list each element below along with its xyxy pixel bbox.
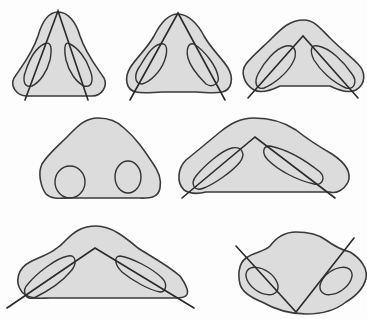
panel-2 xyxy=(127,13,232,100)
panel-5 xyxy=(179,118,349,198)
nasal-base-outline xyxy=(18,226,188,298)
nasal-base-outline xyxy=(239,232,366,314)
panel-3 xyxy=(243,20,364,98)
panel-1 xyxy=(13,11,106,100)
panel-6 xyxy=(7,226,194,308)
nasal-base-outline xyxy=(243,20,364,92)
nose-diagram xyxy=(0,0,367,319)
panel-4 xyxy=(40,118,161,198)
nasal-base-outline xyxy=(40,118,161,198)
panel-7 xyxy=(236,232,366,314)
